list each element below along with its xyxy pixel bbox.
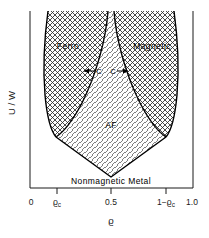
- x-axis-ticks: [57, 188, 166, 194]
- y-axis-label: U / W: [6, 91, 17, 115]
- x-tick-label-rho-c: ϱc: [53, 197, 62, 208]
- x-tick-label-one-minus-rho-c: 1−ϱc: [157, 197, 176, 208]
- x-tick-label-one: 1.0: [186, 197, 198, 207]
- x-tick-label-one-minus-rho-c-base: 1−ϱ: [157, 197, 172, 207]
- x-tick-label-one-minus-rho-c-sub: c: [172, 201, 176, 208]
- region-label-nonmagnetic-metal: Nonmagnetic Metal: [71, 176, 151, 186]
- x-axis-label: ϱ: [108, 215, 114, 226]
- region-label-ferro: Ferro: [57, 41, 79, 51]
- phase-diagram-figure: Ferro Magnetic AF Nonmagnetic Metal C C …: [0, 0, 209, 238]
- region-label-magnetic: Magnetic: [133, 41, 171, 51]
- annotation-label-c-right: C: [110, 67, 116, 76]
- phase-diagram-plot: Ferro Magnetic AF Nonmagnetic Metal C C …: [0, 0, 209, 238]
- annotation-label-c-left: C: [96, 67, 102, 76]
- x-tick-label-rho-c-sub: c: [58, 201, 62, 208]
- x-tick-label-half: 0.5: [105, 197, 117, 207]
- region-label-af: AF: [105, 120, 117, 130]
- x-tick-label-zero: 0: [29, 197, 34, 207]
